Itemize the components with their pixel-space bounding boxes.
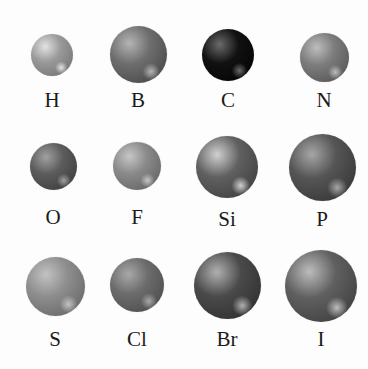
atom-label: S	[25, 329, 85, 350]
atom-label: Si	[197, 209, 257, 230]
sphere-n-icon	[300, 33, 349, 82]
sphere-i-icon	[285, 250, 357, 322]
sphere-si-icon	[196, 136, 258, 198]
sphere-h-icon	[31, 34, 73, 76]
atom-label: P	[292, 209, 352, 230]
atom-label: I	[291, 329, 351, 350]
atom-label: Br	[197, 329, 257, 350]
sphere-cl-icon	[110, 258, 164, 312]
atom-label: B	[108, 90, 168, 111]
sphere-p-icon	[289, 134, 356, 201]
sphere-o-icon	[30, 143, 77, 190]
sphere-s-icon	[26, 257, 85, 316]
atom-label: H	[22, 90, 82, 111]
sphere-br-icon	[194, 252, 261, 319]
atom-label: O	[23, 207, 83, 228]
sphere-c-icon	[202, 29, 254, 81]
sphere-f-icon	[113, 142, 161, 190]
atom-label: F	[107, 207, 167, 228]
atom-label: Cl	[107, 329, 167, 350]
atom-label: N	[294, 90, 354, 111]
sphere-b-icon	[110, 26, 167, 83]
atom-label: C	[198, 90, 258, 111]
